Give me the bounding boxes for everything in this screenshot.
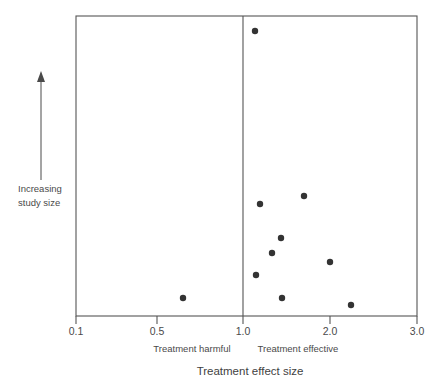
data-point — [327, 259, 333, 265]
data-point — [253, 272, 259, 278]
data-point — [180, 295, 186, 301]
region-label-treatment-harmful: Treatment harmful — [153, 343, 230, 354]
arrow-head — [37, 71, 45, 82]
y-axis-caption: Increasing study size — [18, 183, 62, 208]
y-caption-line-1: Increasing — [18, 183, 62, 194]
funnel-plot-svg: 0.1 0.5 1.0 2.0 3.0 Treatment harmful Tr… — [0, 0, 441, 390]
data-point — [348, 302, 354, 308]
x-tick-label-3: 2.0 — [323, 325, 338, 337]
region-label-treatment-effective: Treatment effective — [258, 343, 339, 354]
region-labels: Treatment harmful Treatment effective — [153, 343, 338, 354]
x-tick-label-4: 3.0 — [410, 325, 425, 337]
funnel-plot-figure: 0.1 0.5 1.0 2.0 3.0 Treatment harmful Tr… — [0, 0, 441, 390]
x-axis-ticks — [76, 316, 417, 324]
x-axis-tick-labels: 0.1 0.5 1.0 2.0 3.0 — [69, 325, 425, 337]
plot-frame — [76, 16, 417, 316]
data-points-layer — [180, 28, 354, 308]
data-point — [252, 28, 258, 34]
increasing-study-size-arrow-icon — [37, 71, 45, 180]
data-point — [269, 250, 275, 256]
data-point — [257, 201, 263, 207]
y-caption-line-2: study size — [18, 197, 60, 208]
data-point — [279, 295, 285, 301]
x-tick-label-0: 0.1 — [69, 325, 84, 337]
data-point — [278, 235, 284, 241]
x-tick-label-2: 1.0 — [236, 325, 251, 337]
data-point — [301, 193, 307, 199]
x-tick-label-1: 0.5 — [150, 325, 165, 337]
x-axis-title: Treatment effect size — [197, 365, 304, 377]
